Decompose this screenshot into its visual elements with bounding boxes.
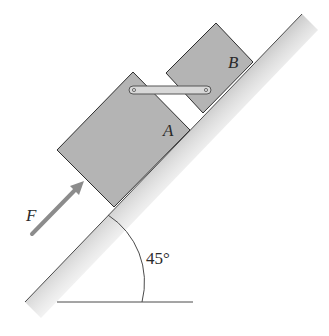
force-arrow-f bbox=[32, 181, 84, 234]
force-f-label: F bbox=[26, 207, 36, 224]
diagram-canvas bbox=[0, 0, 329, 336]
block-b-label: B bbox=[228, 54, 238, 71]
incline-diagram: B A F 45° bbox=[0, 0, 329, 336]
incline-surface bbox=[25, 14, 318, 318]
connecting-link bbox=[129, 86, 211, 94]
angle-label: 45° bbox=[146, 250, 170, 267]
block-a-label: A bbox=[163, 122, 173, 139]
